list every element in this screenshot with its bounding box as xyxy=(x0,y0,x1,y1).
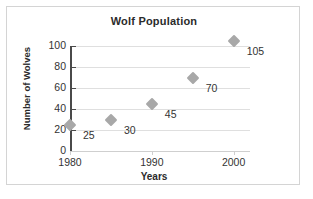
x-axis-line xyxy=(70,151,250,152)
gridline xyxy=(70,130,250,131)
x-axis-tick-label: 2000 xyxy=(211,156,257,168)
y-axis-tick xyxy=(72,67,76,68)
gridline xyxy=(70,88,250,89)
y-axis-tick-label: 40 xyxy=(36,102,66,114)
y-axis-tick xyxy=(72,109,76,110)
data-point-label: 25 xyxy=(83,129,95,141)
x-axis-tick xyxy=(152,151,153,155)
gridline xyxy=(70,46,250,47)
y-axis-tick-label: 80 xyxy=(36,60,66,72)
data-point-marker[interactable] xyxy=(105,113,118,126)
y-axis-tick-label: 60 xyxy=(36,81,66,93)
data-point-label: 105 xyxy=(247,45,265,57)
y-axis-line xyxy=(70,46,72,151)
data-point-label: 70 xyxy=(206,82,218,94)
y-axis-tick xyxy=(72,46,76,47)
x-axis-tick xyxy=(70,151,71,155)
x-axis-tick-label: 1980 xyxy=(47,156,93,168)
y-axis-tick-label: 0 xyxy=(36,144,66,156)
y-axis-tick-label: 100 xyxy=(36,39,66,51)
gridline xyxy=(70,67,250,68)
chart-frame: Wolf Population Number of Wolves 0204060… xyxy=(6,6,300,185)
y-axis-tick xyxy=(72,130,76,131)
data-point-label: 30 xyxy=(124,124,136,136)
plot-area: 020406080100 198019902000 25304570105 xyxy=(70,42,301,152)
y-axis-title: Number of Wolves xyxy=(21,37,32,141)
x-axis-tick xyxy=(234,151,235,155)
x-axis-title: Years xyxy=(7,171,301,182)
y-axis-tick-label: 20 xyxy=(36,123,66,135)
x-axis-tick-label: 1990 xyxy=(129,156,175,168)
y-axis-tick xyxy=(72,88,76,89)
data-point-marker[interactable] xyxy=(186,71,199,84)
gridline xyxy=(70,109,250,110)
data-point-label: 45 xyxy=(165,108,177,120)
chart-title: Wolf Population xyxy=(7,15,301,27)
